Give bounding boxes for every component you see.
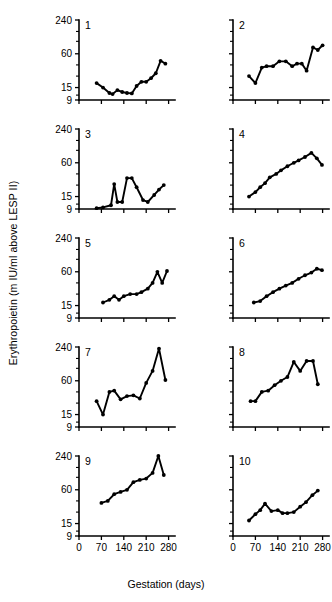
data-point	[162, 183, 166, 187]
data-point	[141, 198, 145, 202]
data-point	[292, 510, 296, 514]
data-point	[112, 492, 116, 496]
data-point	[146, 200, 150, 204]
panel-9: 240601590701402102809	[24, 444, 178, 553]
data-point	[128, 292, 132, 296]
x-tick-label: 140	[115, 542, 132, 553]
y-tick-label: 240	[55, 124, 72, 135]
data-point	[254, 190, 258, 194]
y-tick-label: 9	[66, 422, 72, 433]
data-point	[265, 64, 269, 68]
y-tick-label: 240	[55, 233, 72, 244]
panel-plot-9: 240601590701402102809	[24, 444, 178, 553]
panel-id-label: 3	[85, 128, 91, 140]
data-point	[132, 480, 136, 484]
data-point	[263, 502, 267, 506]
data-point	[125, 91, 129, 95]
data-point	[281, 511, 285, 515]
data-point	[135, 84, 139, 88]
data-point	[132, 393, 136, 397]
panel-plot-6: 6	[178, 226, 332, 335]
data-point	[130, 176, 134, 180]
data-point	[111, 92, 115, 96]
x-tick-label: 70	[96, 542, 108, 553]
data-point	[290, 281, 294, 285]
x-tick-label: 70	[250, 542, 262, 553]
panel-10: 07014021028010	[178, 444, 332, 553]
data-point	[284, 59, 288, 63]
data-point	[101, 413, 105, 417]
data-point	[271, 64, 275, 68]
data-point	[286, 375, 290, 379]
data-point	[268, 175, 272, 179]
data-point	[100, 501, 104, 505]
panel-plot-1: 240601591	[24, 8, 178, 117]
data-point	[95, 206, 99, 210]
data-point	[303, 273, 307, 277]
data-point	[247, 74, 251, 78]
data-point	[310, 493, 314, 497]
y-tick-label: 15	[61, 300, 73, 311]
panel-3: 240601593	[24, 117, 178, 226]
data-point	[106, 499, 110, 503]
data-point	[254, 81, 258, 85]
y-tick-label: 15	[61, 409, 73, 420]
panel-plot-2: 2	[178, 8, 332, 117]
data-point	[159, 59, 163, 63]
data-series-line	[101, 456, 163, 503]
data-point	[298, 505, 302, 509]
panel-plot-5: 240601595	[24, 226, 178, 335]
data-point	[125, 488, 129, 492]
y-tick-label: 9	[66, 313, 72, 324]
data-series-line	[249, 45, 323, 83]
y-tick-label: 60	[61, 375, 73, 386]
data-point	[138, 478, 142, 482]
data-point	[157, 188, 161, 192]
data-point	[304, 500, 308, 504]
data-point	[156, 270, 160, 274]
panel-id-label: 9	[85, 455, 91, 467]
data-series-line	[251, 361, 318, 401]
data-point	[140, 80, 144, 84]
y-axis-label: Erythropoietin (m IU/ml above LESP II)	[7, 180, 19, 365]
panel-id-label: 4	[239, 128, 245, 140]
data-point	[108, 390, 112, 394]
data-point	[260, 390, 264, 394]
data-point	[254, 399, 258, 403]
data-point	[130, 92, 134, 96]
data-point	[279, 379, 283, 383]
y-tick-label: 15	[61, 191, 73, 202]
data-point	[311, 45, 315, 49]
panel-plot-7: 240601597	[24, 335, 178, 444]
data-point	[292, 360, 296, 364]
data-point	[108, 298, 112, 302]
data-point	[152, 193, 156, 197]
data-point	[120, 90, 124, 94]
data-point	[249, 399, 253, 403]
data-point	[265, 294, 269, 298]
data-point	[278, 287, 282, 291]
data-point	[266, 389, 270, 393]
data-point	[274, 172, 278, 176]
data-point	[160, 281, 164, 285]
data-point	[144, 477, 148, 481]
data-series-line	[249, 491, 318, 521]
panel-5: 240601595	[24, 226, 178, 335]
panel-6: 6	[178, 226, 332, 335]
x-axis-label: Gestation (days)	[0, 578, 332, 590]
data-point	[144, 80, 148, 84]
data-point	[297, 159, 301, 163]
data-point	[258, 508, 262, 512]
data-point	[247, 519, 251, 523]
data-point	[101, 86, 105, 90]
panel-id-label: 6	[239, 237, 245, 249]
panel-8: 8	[178, 335, 332, 444]
y-tick-label: 240	[55, 15, 72, 26]
y-tick-label: 60	[61, 484, 73, 495]
data-point	[112, 294, 116, 298]
data-point	[311, 359, 315, 363]
y-tick-label: 60	[61, 266, 73, 277]
data-point	[109, 203, 113, 207]
panel-id-label: 7	[85, 346, 91, 358]
panel-id-label: 10	[239, 455, 251, 467]
